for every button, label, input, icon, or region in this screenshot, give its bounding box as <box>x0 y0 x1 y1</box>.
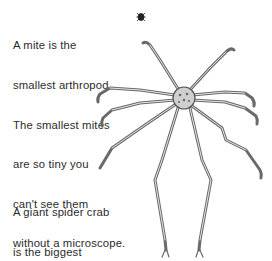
crab-body <box>173 87 195 109</box>
illustration-canvas <box>0 0 272 261</box>
giant-spider-crab-illustration <box>98 42 262 257</box>
mite-icon <box>137 13 146 21</box>
